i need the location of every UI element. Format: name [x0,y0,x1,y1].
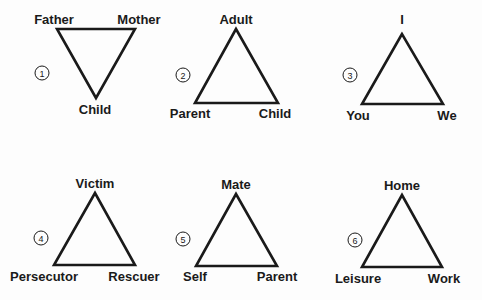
number-4: 4 [38,234,43,244]
label-child-2: Child [259,106,292,121]
label-i: I [400,12,404,27]
triangle-3-group: 3 I You We [343,12,457,123]
label-victim: Victim [76,176,115,191]
label-rescuer: Rescuer [108,269,159,284]
number-5: 5 [180,235,185,245]
label-self: Self [183,269,208,284]
label-mother: Mother [117,12,160,27]
triangle-1 [57,29,135,98]
label-work: Work [428,271,461,286]
triangle-5 [196,194,277,266]
triangles-diagram: 1 Father Mother Child 2 Adult Parent Chi… [0,0,482,300]
label-child-1: Child [79,102,112,117]
number-1: 1 [39,69,44,79]
label-leisure: Leisure [335,271,381,286]
number-6: 6 [352,236,357,246]
triangle-3 [362,34,443,104]
number-3: 3 [347,71,352,81]
triangle-6-group: 6 Home Leisure Work [335,178,461,286]
triangle-2-group: 2 Adult Parent Child [170,12,292,121]
label-adult: Adult [219,12,253,27]
label-we: We [437,108,456,123]
label-parent-5: Parent [257,269,298,284]
triangle-1-group: 1 Father Mother Child [34,12,161,117]
label-home: Home [384,178,420,193]
triangle-5-group: 5 Mate Self Parent [176,177,298,284]
triangle-4 [54,193,135,265]
label-you: You [346,108,370,123]
triangle-2 [195,29,278,103]
label-parent-2: Parent [170,106,211,121]
label-father: Father [34,12,74,27]
triangle-4-group: 4 Victim Persecutor Rescuer [10,176,160,284]
diagram-svg: 1 Father Mother Child 2 Adult Parent Chi… [0,0,482,300]
triangle-6 [362,195,442,267]
number-2: 2 [180,71,185,81]
label-mate: Mate [221,177,251,192]
label-persecutor: Persecutor [10,269,78,284]
